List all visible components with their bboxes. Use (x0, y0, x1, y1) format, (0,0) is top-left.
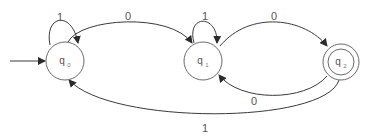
edge-label-q2-q0: 1 (202, 122, 208, 134)
svg-text:q: q (197, 55, 203, 66)
state-q0: q 0 (46, 42, 84, 80)
edge-q0-q1 (68, 22, 192, 43)
edge-label-q1-q1: 1 (202, 10, 208, 22)
edge-label-q2-q1: 0 (251, 95, 257, 107)
svg-text:q: q (335, 56, 341, 67)
edge-q1-q2 (220, 22, 327, 46)
state-diagram: 1 0 1 0 0 1 q 0 q 1 q 2 (0, 0, 366, 139)
edge-label-q0-q0: 1 (57, 11, 63, 23)
edge-label-q1-q2: 0 (271, 10, 277, 22)
state-q1: q 1 (184, 42, 222, 80)
edge-label-q0-q1: 0 (125, 10, 131, 22)
edge-q0-q0 (49, 20, 78, 45)
state-q2-accepting: q 2 (323, 44, 359, 80)
edge-q2-q0 (69, 80, 339, 114)
edge-q1-q1 (193, 21, 217, 43)
svg-text:q: q (59, 55, 65, 66)
edge-q2-q1 (219, 75, 327, 95)
